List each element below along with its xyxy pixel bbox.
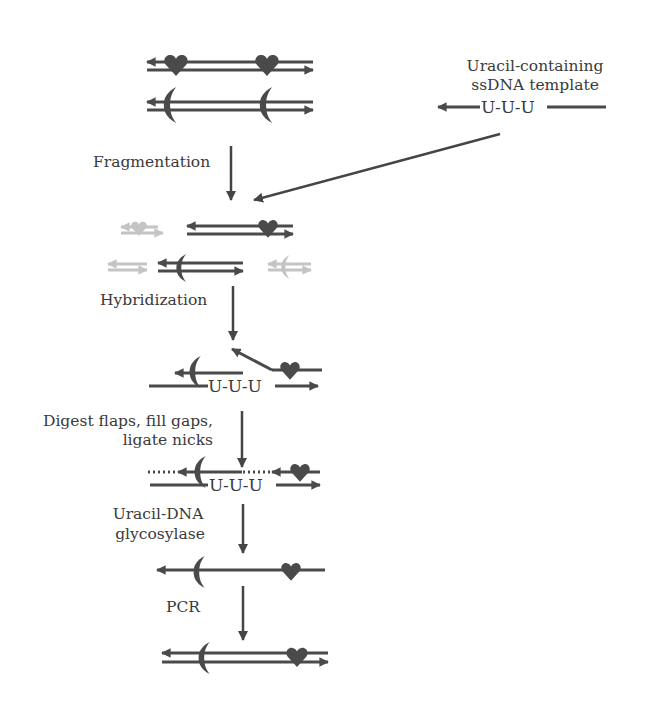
template-sequence: U-U-U (481, 97, 535, 117)
faded-fragment-heart (121, 222, 163, 236)
heart-marker-icon (164, 55, 187, 76)
uracil-ssdna-template: U-U-U (438, 97, 606, 117)
hybrid-sequence: U-U-U (208, 376, 262, 396)
crescent-marker-icon (199, 642, 210, 674)
genomic-dsdna-heart (147, 55, 313, 76)
step-label-udg-line2: glycosylase (115, 525, 205, 543)
heart-marker-icon (286, 648, 307, 667)
template-title-line1: Uracil-containing (467, 57, 604, 75)
crescent-marker-icon (164, 87, 177, 123)
captured-ssdna (157, 556, 325, 588)
step-label-fragmentation: Fragmentation (93, 153, 210, 171)
step-label-digest-line2: ligate nicks (123, 431, 213, 449)
heart-marker-icon (281, 563, 300, 581)
uracil-template-capture-diagram: Uracil-containing ssDNA template U-U-U F… (0, 0, 645, 708)
heart-marker-icon (255, 55, 278, 76)
faded-fragment-crescent (268, 255, 311, 279)
crescent-marker-icon (260, 87, 273, 123)
template-title-line2: ssDNA template (471, 76, 599, 94)
crescent-marker-icon (194, 556, 205, 588)
hybridized-complex: U-U-U (149, 349, 322, 396)
heart-marker-icon (280, 362, 299, 380)
heart-marker-icon (290, 464, 309, 482)
fragment-crescent (158, 254, 243, 282)
ligated-sequence: U-U-U (209, 475, 263, 495)
step-label-udg-line1: Uracil-DNA (113, 505, 205, 523)
template-addition-arrow (254, 134, 500, 200)
step-label-pcr: PCR (166, 598, 201, 616)
fragment-heart (187, 220, 293, 238)
step-label-hybridization: Hybridization (100, 291, 207, 309)
genomic-dsdna-crescent (147, 87, 313, 123)
amplified-dsdna (162, 642, 328, 674)
crescent-marker-icon (176, 254, 186, 282)
crescent-marker-icon (281, 255, 289, 279)
ligated-complex: U-U-U (148, 456, 320, 495)
step-label-digest-line1: Digest flaps, fill gaps, (43, 412, 213, 430)
faded-fragment-plain (108, 264, 147, 270)
